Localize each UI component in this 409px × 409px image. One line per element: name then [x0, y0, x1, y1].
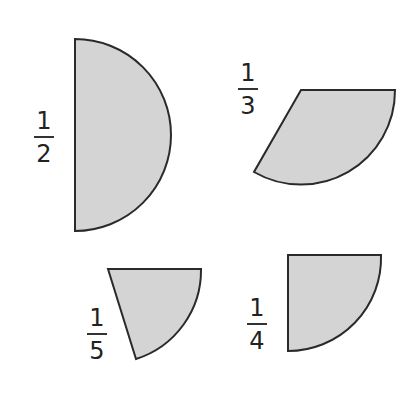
- fraction-bar: [238, 88, 258, 90]
- numerator: 1: [240, 59, 255, 87]
- fraction-label-half: 1 2: [29, 108, 59, 167]
- numerator: 1: [249, 294, 264, 322]
- fraction-bar: [87, 333, 107, 335]
- quarter-sector: [288, 255, 381, 351]
- denominator: 3: [240, 92, 255, 120]
- third-sector: [254, 90, 395, 185]
- fraction-label-third: 1 3: [233, 60, 263, 119]
- fraction-label-fifth: 1 5: [82, 305, 112, 364]
- half-sector: [75, 39, 171, 231]
- denominator: 4: [249, 327, 264, 355]
- fifth-sector: [108, 269, 201, 359]
- fraction-bar: [34, 136, 54, 138]
- denominator: 2: [36, 140, 51, 168]
- fraction-sectors-diagram: [0, 0, 409, 409]
- numerator: 1: [36, 107, 51, 135]
- denominator: 5: [89, 337, 104, 365]
- fraction-bar: [247, 323, 267, 325]
- fraction-label-quarter: 1 4: [242, 295, 272, 354]
- numerator: 1: [89, 304, 104, 332]
